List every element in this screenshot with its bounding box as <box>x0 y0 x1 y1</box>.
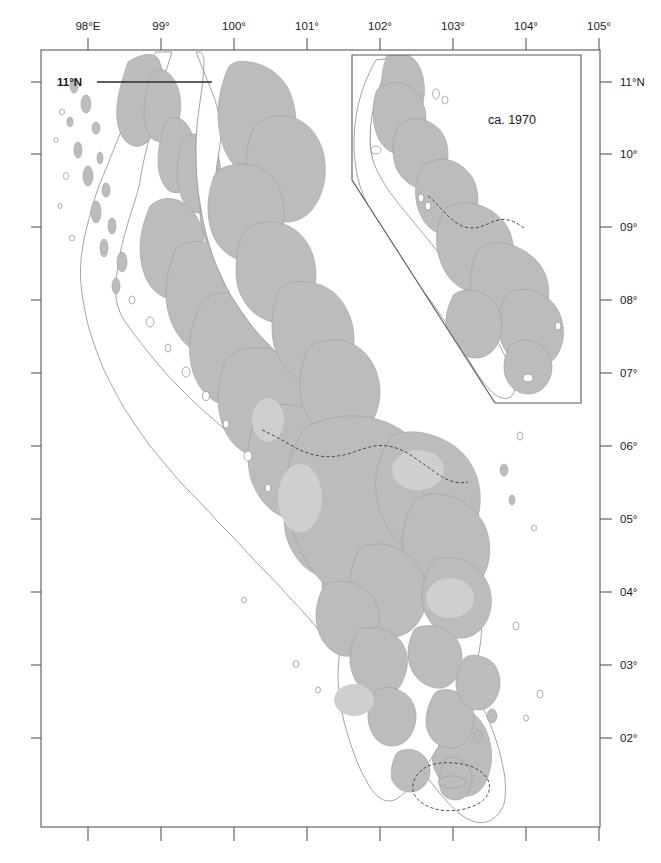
right-axis-tick-label: 04° <box>620 586 637 598</box>
islet <box>83 166 93 186</box>
islet <box>524 715 529 721</box>
singapore-forest <box>438 776 466 788</box>
islet <box>70 235 75 241</box>
top-axis-tick-label: 100° <box>222 20 246 32</box>
islet <box>316 687 321 693</box>
islet <box>129 296 135 304</box>
islet <box>60 109 65 115</box>
right-axis-tick-label: 08° <box>620 294 637 306</box>
map-canvas: 11°N <box>0 0 661 863</box>
islet <box>203 392 210 401</box>
islet <box>54 138 58 143</box>
inset-islet <box>418 194 424 202</box>
islet <box>64 173 69 180</box>
forest-halo <box>252 398 284 442</box>
islet <box>517 432 523 440</box>
islet <box>265 484 271 492</box>
right-axis-tick-label: 07° <box>620 367 637 379</box>
forest-halo <box>426 578 474 618</box>
right-axis-tick-label: 03° <box>620 659 637 671</box>
islet <box>146 317 154 327</box>
islet <box>100 239 108 257</box>
islet <box>509 495 515 505</box>
islet <box>92 122 100 134</box>
map-figure: 11°N <box>0 0 661 863</box>
graticule-label-11N: 11°N <box>57 76 82 88</box>
right-axis-tick-label: 06° <box>620 440 637 452</box>
forest-halo <box>334 684 374 716</box>
right-axis-tick-label: 02° <box>620 732 637 744</box>
forest-halo <box>278 464 322 532</box>
inset-islet <box>425 202 431 210</box>
inset-islet <box>555 322 561 330</box>
islet <box>500 464 508 476</box>
top-axis-tick-label: 103° <box>441 20 465 32</box>
inset-islet <box>442 96 448 104</box>
islet <box>108 218 116 234</box>
islet <box>117 252 127 272</box>
islet <box>67 117 73 127</box>
islet <box>74 142 82 158</box>
islet <box>182 367 190 377</box>
islet <box>102 183 110 197</box>
islet <box>474 730 482 742</box>
islet <box>112 278 120 294</box>
forest-halo <box>392 450 444 490</box>
islet <box>97 152 103 164</box>
top-axis-tick-label: 98°E <box>75 20 100 32</box>
top-axis-tick-label: 104° <box>514 20 538 32</box>
forest-patch <box>456 655 500 710</box>
islet <box>537 690 543 698</box>
islet <box>513 622 519 630</box>
islet <box>293 661 299 668</box>
islet <box>532 525 537 531</box>
islet <box>165 344 171 352</box>
islet <box>242 597 247 603</box>
inset-title: ca. 1970 <box>488 113 536 127</box>
right-axis-tick-label: 10° <box>620 148 637 160</box>
right-axis-tick-label: 09° <box>620 221 637 233</box>
islet <box>487 709 497 723</box>
islet <box>91 201 101 223</box>
right-axis-tick-label: 11°N <box>620 76 645 88</box>
top-axis-tick-label: 99° <box>152 20 169 32</box>
islet <box>81 95 91 113</box>
top-axis-tick-label: 102° <box>368 20 392 32</box>
top-axis-tick-label: 101° <box>295 20 319 32</box>
islet <box>58 204 62 209</box>
inset-islet <box>371 146 381 154</box>
top-axis-tick-label: 105° <box>587 20 611 32</box>
inset-islet <box>523 374 533 382</box>
islet <box>223 420 229 428</box>
inset-islet <box>433 89 440 99</box>
right-axis-tick-label: 05° <box>620 513 637 525</box>
islet <box>244 451 252 461</box>
